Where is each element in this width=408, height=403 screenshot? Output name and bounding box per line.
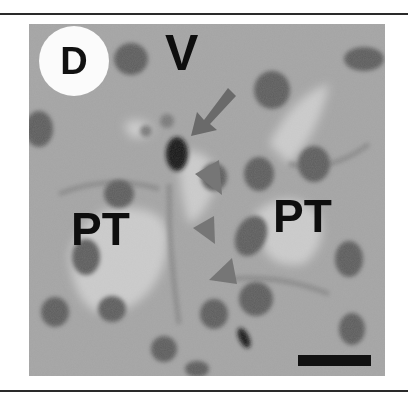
top-rule	[0, 13, 408, 15]
panel-label: D	[39, 26, 109, 96]
proximal-tubule-label-left: PT	[71, 206, 130, 252]
proximal-tubule-label-right: PT	[273, 193, 332, 239]
vessel-label: V	[165, 28, 198, 78]
panel-label-badge: D	[39, 26, 109, 96]
scale-bar	[298, 355, 371, 366]
micrograph-panel: D V PT PT	[29, 24, 385, 376]
bottom-rule	[0, 390, 408, 392]
